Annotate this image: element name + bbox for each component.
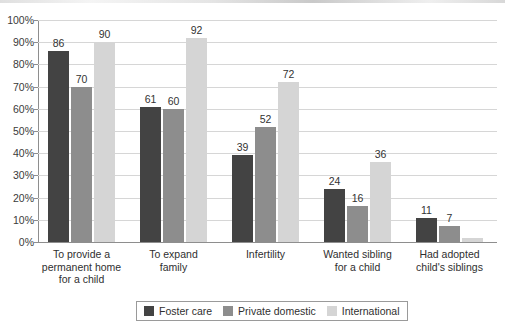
bar-value-label: 90 [88, 29, 121, 40]
y-axis-tick-label: 90% [0, 37, 34, 48]
y-axis-tick-label: 70% [0, 82, 34, 93]
y-axis-tickmark [34, 64, 38, 65]
legend-label: Private domestic [238, 306, 316, 317]
y-axis-tickmark [34, 131, 38, 132]
bar-group: 616092 [140, 20, 207, 242]
grouped-bar-chart: 100%90%80%70%60%50%40%30%20%10%0% 867090… [0, 0, 505, 330]
legend-swatch-icon [223, 306, 233, 316]
legend-entry[interactable]: Foster care [144, 306, 212, 317]
bar-3-group-3[interactable] [278, 82, 299, 242]
y-axis-tick-label: 60% [0, 104, 34, 115]
bar-3-group-4[interactable] [370, 162, 391, 242]
legend-entry[interactable]: Private domestic [223, 306, 316, 317]
bar-3-group-5[interactable] [462, 238, 483, 242]
bar-value-label: 7 [433, 213, 466, 224]
y-axis-tick-label: 0% [0, 237, 34, 248]
bar-1-group-2[interactable] [140, 107, 161, 242]
y-axis-tickmark [34, 109, 38, 110]
bar-value-label: 86 [42, 38, 75, 49]
bar-group: 241636 [324, 20, 391, 242]
bar-2-group-4[interactable] [347, 206, 368, 242]
bar-value-label: 24 [318, 176, 351, 187]
bar-value-label: 72 [272, 69, 305, 80]
y-axis-tickmark [34, 42, 38, 43]
y-axis-tickmark [34, 220, 38, 221]
y-axis-tickmark [34, 87, 38, 88]
y-axis-tick-label: 100% [0, 15, 34, 26]
y-axis-tickmark [34, 175, 38, 176]
bar-value-label: 36 [364, 149, 397, 160]
bar-value-label: 92 [180, 25, 213, 36]
bar-2-group-5[interactable] [439, 226, 460, 242]
legend-label: Foster care [159, 306, 212, 317]
category-label: Had adopted child's siblings [395, 248, 505, 273]
legend-entry[interactable]: International [327, 306, 400, 317]
y-axis-tick-label: 10% [0, 215, 34, 226]
gridline [38, 242, 497, 243]
legend-swatch-icon [144, 306, 154, 316]
y-axis-tick-label: 40% [0, 148, 34, 159]
y-axis-tickmark [34, 153, 38, 154]
plot-area: 867090616092395272241636117 [38, 20, 497, 242]
y-axis-tick-label: 50% [0, 126, 34, 137]
chart-legend: Foster carePrivate domesticInternational [136, 301, 408, 321]
bar-group: 867090 [48, 20, 115, 242]
y-axis-tickmark [34, 198, 38, 199]
y-axis-tick-labels: 100%90%80%70%60%50%40%30%20%10%0% [0, 20, 34, 242]
legend-swatch-icon [327, 306, 337, 316]
y-axis-tick-label: 20% [0, 193, 34, 204]
bar-2-group-2[interactable] [163, 109, 184, 242]
bar-1-group-3[interactable] [232, 155, 253, 242]
bar-group: 117 [416, 20, 483, 242]
y-axis-tick-label: 80% [0, 59, 34, 70]
bar-2-group-3[interactable] [255, 127, 276, 242]
bar-group: 395272 [232, 20, 299, 242]
y-axis-tickmark [34, 242, 38, 243]
bar-3-group-1[interactable] [94, 42, 115, 242]
y-axis-tick-label: 30% [0, 170, 34, 181]
bar-2-group-1[interactable] [71, 87, 92, 242]
y-axis-tickmark [34, 20, 38, 21]
bar-3-group-2[interactable] [186, 38, 207, 242]
legend-label: International [342, 306, 400, 317]
